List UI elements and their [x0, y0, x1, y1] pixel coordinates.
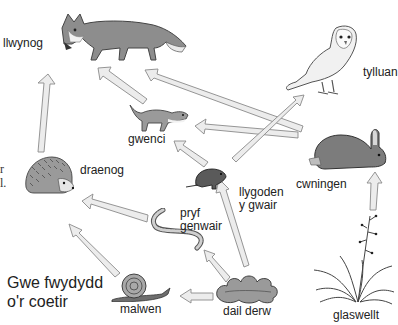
diagram-title-line2: o'r coetir	[7, 292, 68, 311]
label-malwen: malwen	[120, 303, 161, 317]
label-tylluan: tylluan	[363, 66, 398, 80]
cropped-edge-text-line2: l.	[0, 177, 6, 191]
arrow-draenog-to-llwynog	[38, 74, 55, 152]
label-cwningen: cwningen	[296, 178, 347, 192]
snail-illustration	[110, 272, 172, 302]
label-llygoden-line2: y gwair	[239, 199, 277, 213]
label-llwynog: llwynog	[3, 37, 43, 51]
arrow-dail-to-malwen	[180, 289, 213, 303]
grass-illustration	[312, 210, 396, 306]
label-draenog: draenog	[80, 164, 124, 178]
arrow-pryf-to-draenog	[82, 194, 148, 222]
hedgehog-illustration	[22, 155, 74, 197]
arrow-glaswellt-to-cwningen	[367, 172, 382, 210]
label-glaswellt: glaswellt	[333, 309, 379, 323]
vole-illustration	[186, 165, 228, 191]
diagram-title-line1: Gwe fwydydd	[7, 273, 103, 292]
oak-leaves-illustration	[215, 270, 279, 304]
label-pryf-line2: genwair	[180, 220, 222, 234]
label-dail-derw: dail derw	[223, 305, 271, 319]
fox-illustration	[58, 8, 190, 64]
arrow-gwenci-to-llwynog	[98, 67, 147, 104]
owl-illustration	[282, 22, 372, 98]
arrow-malwen-to-draenog	[69, 224, 120, 277]
rabbit-illustration	[305, 125, 387, 173]
weasel-illustration	[128, 103, 190, 133]
arrow-llygoden-to-gwenci	[174, 141, 208, 167]
label-gwenci: gwenci	[128, 133, 165, 147]
cropped-edge-text-line1: r	[0, 163, 4, 177]
